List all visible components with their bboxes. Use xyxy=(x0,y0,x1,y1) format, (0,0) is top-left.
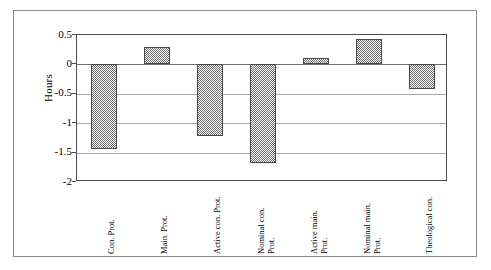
x-tick-label: Active con. Prot. xyxy=(213,196,223,254)
x-tick-label: Theological con. xyxy=(425,197,435,254)
y-tick-label: 0.5 xyxy=(32,29,72,40)
plot-area xyxy=(76,34,447,181)
x-tick-label: Con. Prot. xyxy=(107,219,117,254)
x-axis-labels: Con. Prot.Main. Prot.Active con. Prot.No… xyxy=(76,184,447,256)
bar xyxy=(303,58,329,64)
bar xyxy=(356,39,382,64)
y-tick-mark xyxy=(72,181,76,182)
x-tick-label: Active main.Prot. xyxy=(310,210,329,254)
x-tick-label: Nominal main.Prot. xyxy=(363,203,382,254)
chart-figure: Hours 0.50-0.5-1-1.5-2 Con. Prot.Main. P… xyxy=(0,0,491,270)
bar xyxy=(250,64,276,162)
y-axis-ticks: 0.50-0.5-1-1.5-2 xyxy=(28,34,72,181)
bar xyxy=(409,64,435,89)
bar xyxy=(197,64,223,136)
bar xyxy=(91,64,117,149)
y-tick-label: -1 xyxy=(32,117,72,128)
x-tick-label: Nominal con.Prot. xyxy=(257,208,276,254)
y-tick-label: -0.5 xyxy=(32,87,72,98)
y-tick-label: -1.5 xyxy=(32,146,72,157)
bar xyxy=(144,47,170,65)
y-tick-label: -2 xyxy=(32,176,72,187)
y-tick-label: 0 xyxy=(32,58,72,69)
x-tick-label: Main. Prot. xyxy=(160,216,170,255)
